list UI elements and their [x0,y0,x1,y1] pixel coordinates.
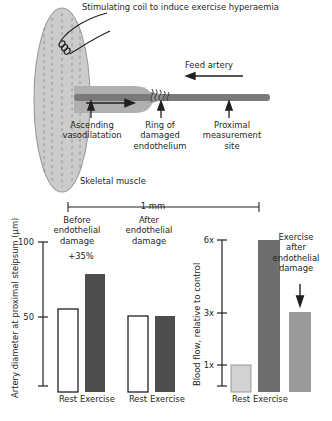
figure-root: Stimulating coil to induce exercise hype… [0,0,332,421]
feed-artery-vessel [74,94,270,101]
stimulating-coil-title: Stimulating coil to induce exercise hype… [82,2,279,12]
bar-before-rest [58,309,78,392]
cat-label-after-exercise: Exercise [150,394,182,404]
group-label-before-damage: Before endothelial damage [44,215,110,246]
skeletal-muscle-label: Skeletal muscle [80,176,146,186]
right-ytick-6x: 6x [188,235,214,245]
cat-label-flow-exercise: Exercise [253,394,285,404]
bar-flow-rest [231,365,251,392]
cat-label-before-exercise: Exercise [80,394,112,404]
right-chart-axis [217,240,227,386]
experiment-diagram: Stimulating coil to induce exercise hype… [0,0,332,196]
bar-before-exercise [85,274,105,392]
bar-after-exercise [155,316,175,392]
percent-increase-annotation: +35% [58,251,104,261]
cat-label-flow-rest: Rest [227,394,255,404]
cat-label-after-rest: Rest [124,394,152,404]
ascending-vasodilatation-label: Ascending vasodilatation [56,120,128,141]
charts-panel: 1 mm Artery diameter at proximal steipsu… [0,196,332,421]
right-ytick-1x: 1x [188,360,214,370]
exercise-after-damage-annotation: Exercise after endothelial damage [262,232,330,274]
diagram-svg [0,0,332,196]
left-ytick-100: 100 [8,237,34,247]
group-label-after-damage: After endothelial damage [116,215,182,246]
left-ytick-50: 50 [8,312,34,322]
left-chart-axis [38,242,48,386]
feed-artery-label: Feed artery [185,60,233,70]
bar-after-rest [128,316,148,392]
ring-damaged-endothelium-label: Ring of damaged endothelium [128,120,192,151]
exercise-after-damage-arrow [297,284,304,306]
proximal-measurement-site-label: Proximal measurement site [196,120,268,151]
cat-label-before-rest: Rest [54,394,82,404]
feed-artery-arrow [186,73,243,80]
right-ytick-3x: 3x [188,308,214,318]
scale-bar-label: 1 mm [128,201,178,211]
bar-flow-exercise-after-damage [289,312,311,392]
